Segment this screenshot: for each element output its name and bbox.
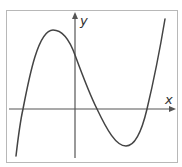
cubic-function-graph: y x <box>0 0 182 167</box>
y-axis-label: y <box>79 13 88 28</box>
x-axis-label: x <box>164 92 173 107</box>
chart-canvas: y x <box>0 0 182 167</box>
